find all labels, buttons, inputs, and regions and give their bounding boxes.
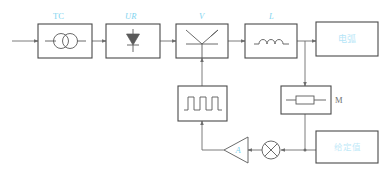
block-inductor[interactable] (245, 24, 297, 58)
label-setpoint: 给定值 (334, 142, 361, 152)
label-transformer: TC (53, 11, 64, 21)
block-load[interactable]: 电弧 (316, 22, 378, 56)
label-load: 电弧 (338, 33, 356, 44)
block-thyristor[interactable] (176, 24, 228, 58)
block-diagram-svg: TC UR V (0, 0, 388, 171)
block-setpoint[interactable]: 给定值 (316, 131, 378, 163)
summing-junction[interactable] (262, 141, 280, 159)
block-shunt[interactable] (281, 86, 331, 114)
label-amplifier: A (234, 145, 241, 155)
label-shunt: M (335, 95, 343, 105)
node-dot-feedback (304, 149, 307, 152)
amplifier-triangle[interactable]: A (224, 137, 248, 163)
label-inductor: L (268, 11, 274, 21)
label-rectifier: UR (125, 11, 137, 21)
block-pulse-generator[interactable] (178, 86, 227, 121)
block-rectifier[interactable] (106, 24, 160, 58)
wire-amplifier-to-pulse (202, 121, 224, 150)
block-transformer[interactable] (38, 24, 92, 58)
block-diagram-canvas: TC UR V (0, 0, 388, 171)
label-thyristor: V (199, 11, 206, 21)
